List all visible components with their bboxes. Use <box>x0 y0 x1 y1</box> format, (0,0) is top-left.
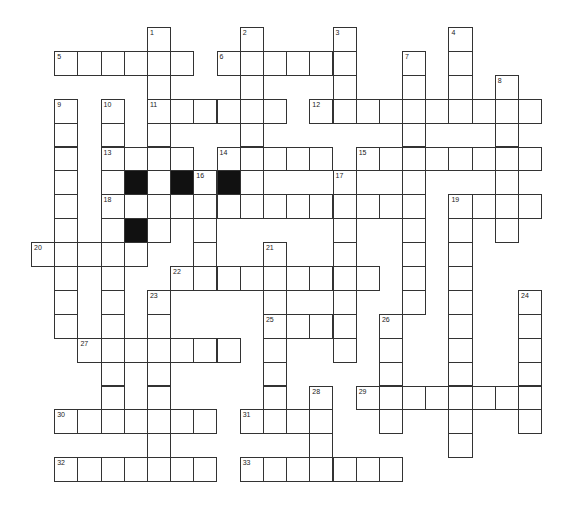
grid-cell[interactable] <box>333 75 357 100</box>
grid-cell[interactable] <box>263 51 287 76</box>
grid-cell[interactable]: 28 <box>309 386 333 411</box>
grid-cell[interactable] <box>309 194 333 219</box>
grid-cell[interactable] <box>263 290 287 315</box>
grid-cell[interactable] <box>217 99 241 124</box>
grid-cell[interactable] <box>54 218 78 243</box>
grid-cell[interactable]: 6 <box>217 51 241 76</box>
grid-cell[interactable] <box>518 409 542 434</box>
grid-cell[interactable] <box>147 409 171 434</box>
grid-cell[interactable] <box>240 123 264 148</box>
grid-cell[interactable]: 31 <box>240 409 264 434</box>
grid-cell[interactable] <box>54 170 78 195</box>
grid-cell[interactable] <box>425 147 449 172</box>
grid-cell[interactable] <box>495 218 519 243</box>
grid-cell[interactable] <box>170 147 194 172</box>
grid-cell[interactable] <box>124 242 148 267</box>
grid-cell[interactable]: 1 <box>147 27 171 52</box>
grid-cell[interactable] <box>263 457 287 482</box>
grid-cell[interactable] <box>495 170 519 195</box>
grid-cell[interactable] <box>77 242 101 267</box>
grid-cell[interactable]: 13 <box>101 147 125 172</box>
grid-cell[interactable] <box>263 362 287 387</box>
grid-cell[interactable] <box>309 266 333 291</box>
grid-cell[interactable] <box>77 51 101 76</box>
grid-cell[interactable] <box>425 386 449 411</box>
grid-cell[interactable]: 25 <box>263 314 287 339</box>
grid-cell[interactable] <box>379 147 403 172</box>
grid-cell[interactable] <box>101 266 125 291</box>
grid-cell[interactable] <box>193 99 217 124</box>
grid-cell[interactable]: 2 <box>240 27 264 52</box>
grid-cell[interactable] <box>286 409 310 434</box>
grid-cell[interactable] <box>147 433 171 458</box>
grid-cell[interactable] <box>170 51 194 76</box>
grid-cell[interactable] <box>286 194 310 219</box>
grid-cell[interactable] <box>124 457 148 482</box>
grid-cell[interactable] <box>240 99 264 124</box>
grid-cell[interactable]: 32 <box>54 457 78 482</box>
grid-cell[interactable] <box>193 266 217 291</box>
grid-cell[interactable] <box>101 362 125 387</box>
grid-cell[interactable] <box>54 266 78 291</box>
grid-cell[interactable] <box>147 362 171 387</box>
grid-cell[interactable] <box>193 218 217 243</box>
grid-cell[interactable] <box>170 99 194 124</box>
grid-cell[interactable] <box>448 75 472 100</box>
grid-cell[interactable] <box>356 99 380 124</box>
grid-cell[interactable] <box>193 194 217 219</box>
grid-cell[interactable]: 5 <box>54 51 78 76</box>
grid-cell[interactable]: 8 <box>495 75 519 100</box>
grid-cell[interactable] <box>472 194 496 219</box>
grid-cell[interactable] <box>518 386 542 411</box>
grid-cell[interactable] <box>333 338 357 363</box>
grid-cell[interactable] <box>147 386 171 411</box>
grid-cell[interactable] <box>333 99 357 124</box>
grid-cell[interactable] <box>518 314 542 339</box>
grid-cell[interactable] <box>448 433 472 458</box>
grid-cell[interactable]: 16 <box>193 170 217 195</box>
grid-cell[interactable]: 22 <box>170 266 194 291</box>
grid-cell[interactable] <box>356 457 380 482</box>
grid-cell[interactable] <box>333 51 357 76</box>
grid-cell[interactable] <box>170 457 194 482</box>
grid-cell[interactable] <box>240 170 264 195</box>
grid-cell[interactable] <box>518 362 542 387</box>
grid-cell[interactable] <box>170 338 194 363</box>
grid-cell[interactable] <box>333 242 357 267</box>
grid-cell[interactable]: 9 <box>54 99 78 124</box>
grid-cell[interactable] <box>472 99 496 124</box>
grid-cell[interactable] <box>101 457 125 482</box>
grid-cell[interactable] <box>356 266 380 291</box>
grid-cell[interactable]: 4 <box>448 27 472 52</box>
grid-cell[interactable]: 14 <box>217 147 241 172</box>
grid-cell[interactable]: 7 <box>402 51 426 76</box>
grid-cell[interactable] <box>240 147 264 172</box>
grid-cell[interactable] <box>286 51 310 76</box>
grid-cell[interactable]: 21 <box>263 242 287 267</box>
grid-cell[interactable] <box>286 147 310 172</box>
grid-cell[interactable] <box>147 123 171 148</box>
grid-cell[interactable] <box>240 194 264 219</box>
grid-cell[interactable] <box>448 338 472 363</box>
grid-cell[interactable] <box>379 362 403 387</box>
grid-cell[interactable] <box>54 194 78 219</box>
grid-cell[interactable] <box>193 409 217 434</box>
grid-cell[interactable] <box>54 314 78 339</box>
grid-cell[interactable] <box>101 170 125 195</box>
grid-cell[interactable]: 15 <box>356 147 380 172</box>
grid-cell[interactable]: 18 <box>101 194 125 219</box>
grid-cell[interactable] <box>402 266 426 291</box>
grid-cell[interactable] <box>77 457 101 482</box>
grid-cell[interactable] <box>263 99 287 124</box>
grid-cell[interactable] <box>101 218 125 243</box>
grid-cell[interactable] <box>286 266 310 291</box>
grid-cell[interactable] <box>124 338 148 363</box>
grid-cell[interactable] <box>101 51 125 76</box>
grid-cell[interactable] <box>495 123 519 148</box>
grid-cell[interactable] <box>402 170 426 195</box>
grid-cell[interactable] <box>124 409 148 434</box>
grid-cell[interactable] <box>495 99 519 124</box>
grid-cell[interactable] <box>147 75 171 100</box>
grid-cell[interactable] <box>518 147 542 172</box>
grid-cell[interactable] <box>379 194 403 219</box>
